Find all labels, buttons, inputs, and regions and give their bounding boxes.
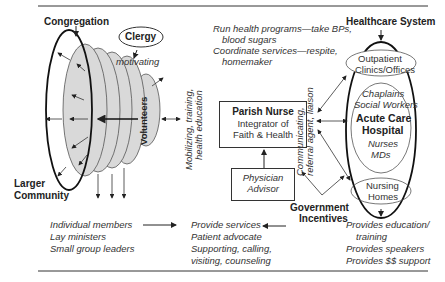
activity-line-3: Coordinate services—respite, [213, 46, 338, 56]
nursing-homes-line2: Homes [368, 192, 398, 202]
volunteers-label: Volunteers [139, 97, 149, 145]
member-line-2: Lay ministers [50, 232, 106, 242]
service-line-1: Provide services [191, 220, 261, 230]
nurses-label: Nurses [368, 139, 398, 149]
activity-line-1: Run health programs—take BPs, [213, 24, 352, 34]
member-line-1: Individual members [50, 220, 132, 230]
provides-line-2: training [356, 232, 387, 242]
healthcare-system-label: Healthcare System [346, 16, 436, 27]
government-line1: Government [290, 202, 349, 213]
activity-line-4: homemaker [222, 57, 272, 67]
acute-care-line2: Hospital [362, 125, 403, 137]
communicating-line2: referral agent, liaison [305, 87, 315, 176]
larger-community-line2: Community [14, 190, 69, 201]
mobilizing-line2: health education [194, 90, 204, 160]
social-workers-label: Social Workers [354, 100, 418, 110]
nursing-homes-line1: Nursing [366, 181, 399, 191]
clergy-label: Clergy [125, 31, 156, 42]
physician-advisor-box: Physician Advisor [231, 168, 295, 201]
provides-line-3: Provides speakers [346, 244, 424, 254]
service-line-3: Supporting, calling, [191, 244, 272, 254]
physician-advisor-line1: Physician [232, 172, 294, 183]
outpatient-line1: Outpatient [358, 54, 402, 64]
government-line2: Incentives [299, 213, 348, 224]
outpatient-line2: Clinics/Offices [355, 65, 415, 75]
acute-care-line1: Acute Care [356, 113, 411, 125]
service-line-4: visiting, counseling [191, 256, 271, 266]
provides-line-4: Provides $$ support [346, 256, 431, 266]
service-line-2: Patient advocate [191, 232, 262, 242]
chaplains-label: Chaplains [362, 89, 404, 99]
member-line-3: Small group leaders [50, 244, 135, 254]
motivating-label: motivating [116, 57, 159, 67]
activity-line-2: blood sugars [222, 35, 276, 45]
larger-community-line1: Larger [14, 178, 45, 189]
congregation-label: Congregation [44, 16, 109, 27]
mds-label: MDs [371, 150, 391, 160]
physician-advisor-line2: Advisor [232, 183, 294, 194]
provides-line-1: Provides education/ [346, 220, 429, 230]
